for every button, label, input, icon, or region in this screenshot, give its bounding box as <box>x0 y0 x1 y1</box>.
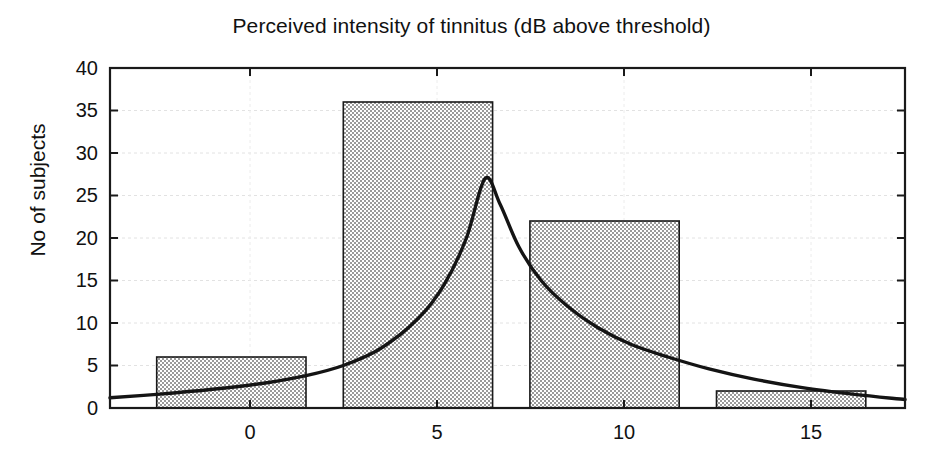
plot-canvas <box>0 0 943 473</box>
bar-1 <box>157 357 306 408</box>
bar-2 <box>343 102 492 408</box>
chart-figure: Perceived intensity of tinnitus (dB abov… <box>0 0 943 473</box>
bar-3 <box>530 221 679 408</box>
